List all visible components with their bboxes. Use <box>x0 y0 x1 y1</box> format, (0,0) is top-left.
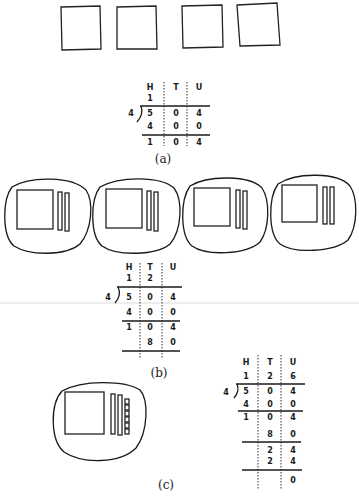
ten-rod <box>58 192 62 230</box>
divisor: 4 <box>105 293 111 302</box>
unit-cubes <box>125 399 129 434</box>
ten-rod <box>111 394 115 434</box>
cell: 0 <box>290 400 296 409</box>
quotient-h: 1 <box>126 274 132 283</box>
hundred-block <box>61 6 101 50</box>
hundred-block <box>182 5 223 48</box>
quotient-h: 1 <box>243 372 249 381</box>
division-table-b: H T U 1 2 4 5 0 4 4 0 0 1 0 4 8 0 <box>105 263 182 358</box>
hundred-block <box>17 190 53 229</box>
dividend-h: 5 <box>243 387 249 396</box>
group-blob <box>5 179 91 253</box>
group-blob <box>183 178 268 253</box>
division-diagram: H T U 1 4 5 0 4 4 0 0 1 0 4 (a) <box>0 0 359 496</box>
unit-cube <box>125 417 129 422</box>
panel-c: H T U 1 2 6 4 5 0 4 4 0 0 1 0 4 8 0 2 4 … <box>53 355 305 492</box>
quotient-t: 2 <box>147 274 153 283</box>
header-u: U <box>170 263 177 272</box>
group-blob <box>93 179 180 253</box>
ten-rod <box>330 187 334 224</box>
quotient-h: 1 <box>147 94 153 103</box>
dividend-h: 5 <box>126 293 132 302</box>
hundred-blocks <box>61 3 280 50</box>
unit-cube <box>125 411 129 416</box>
hundred-block <box>194 188 230 226</box>
cell: 1 <box>126 323 132 332</box>
cell: 2 <box>267 457 273 466</box>
header-u: U <box>196 83 203 92</box>
dividend-u: 4 <box>170 293 176 302</box>
cell: 0 <box>170 338 176 347</box>
hundred-block <box>237 3 280 46</box>
group-blob <box>53 383 146 461</box>
cell: 0 <box>267 400 273 409</box>
header-t: T <box>267 358 273 367</box>
ten-rod <box>323 187 327 224</box>
cell: 0 <box>147 323 153 332</box>
cell: 4 <box>290 413 296 422</box>
quotient-t: 2 <box>267 372 273 381</box>
cell: 4 <box>147 122 153 131</box>
ten-rod <box>243 191 247 229</box>
cell: 4 <box>290 446 296 455</box>
divisor: 4 <box>223 388 229 397</box>
header-t: T <box>147 263 153 272</box>
dividend-t: 0 <box>267 387 273 396</box>
cell: 4 <box>196 138 202 147</box>
unit-cube <box>125 429 129 434</box>
cell: 4 <box>243 400 249 409</box>
division-bracket <box>234 384 238 398</box>
panel-b: H T U 1 2 4 5 0 4 4 0 0 1 0 4 8 0 (b) <box>5 175 356 380</box>
panel-a: H T U 1 4 5 0 4 4 0 0 1 0 4 (a) <box>61 3 280 166</box>
header-h: H <box>126 263 133 272</box>
header-h: H <box>147 83 154 92</box>
group-blob <box>271 175 356 250</box>
cell: 0 <box>170 308 176 317</box>
hundred-block <box>117 6 157 49</box>
cell: 0 <box>147 308 153 317</box>
cell: 2 <box>267 446 273 455</box>
division-bracket <box>137 106 142 122</box>
caption-a: (a) <box>155 152 172 166</box>
cell: 1 <box>147 138 153 147</box>
division-table-a: H T U 1 4 5 0 4 4 0 0 1 0 4 <box>128 82 210 147</box>
dividend-t: 0 <box>147 293 153 302</box>
cell: 0 <box>290 476 296 485</box>
unit-cube <box>125 405 129 410</box>
division-table-c: H T U 1 2 6 4 5 0 4 4 0 0 1 0 4 8 0 2 4 … <box>223 355 305 490</box>
ten-rod <box>154 192 158 231</box>
ten-rod <box>118 395 122 435</box>
cell: 8 <box>147 338 153 347</box>
quotient-u: 6 <box>290 372 296 381</box>
cell: 8 <box>267 430 273 439</box>
cell: 4 <box>170 323 176 332</box>
ten-rod <box>65 193 69 231</box>
division-bracket <box>115 287 119 303</box>
hundred-block <box>106 189 142 228</box>
header-u: U <box>290 358 297 367</box>
dividend-h: 5 <box>147 109 153 118</box>
cell: 0 <box>196 122 202 131</box>
divisor: 4 <box>128 109 134 118</box>
header-h: H <box>243 358 250 367</box>
cell: 1 <box>243 413 249 422</box>
hundred-block <box>65 392 104 434</box>
cell: 0 <box>267 413 273 422</box>
dividend-t: 0 <box>173 109 179 118</box>
cell: 4 <box>126 308 132 317</box>
hundred-block <box>282 185 317 222</box>
dividend-u: 4 <box>196 109 202 118</box>
unit-cube <box>125 423 129 428</box>
caption-c: (c) <box>158 478 174 492</box>
dividend-u: 4 <box>290 387 296 396</box>
caption-b: (b) <box>150 366 167 380</box>
cell: 4 <box>290 457 296 466</box>
cell: 0 <box>173 138 179 147</box>
header-t: T <box>173 83 179 92</box>
cell: 0 <box>290 430 296 439</box>
unit-cube <box>125 399 129 404</box>
ten-rod <box>147 191 151 230</box>
ten-rod <box>236 190 240 228</box>
cell: 0 <box>173 122 179 131</box>
